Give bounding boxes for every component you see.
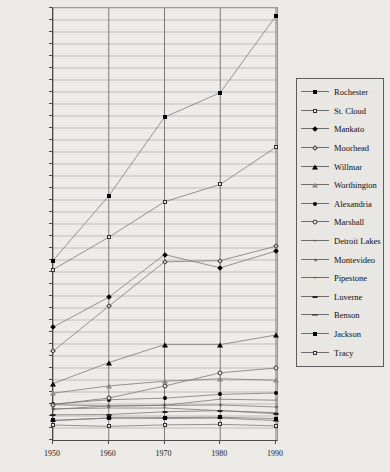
legend-symbol	[301, 328, 329, 340]
legend-item-willmar[interactable]: Willmar	[299, 157, 381, 176]
legend-symbol	[301, 161, 329, 173]
data-point-marker	[218, 415, 222, 419]
data-point-marker	[51, 268, 55, 272]
legend-label: Worthington	[329, 180, 377, 190]
legend-item-mankato[interactable]: Mankato	[299, 120, 381, 139]
data-point-marker	[51, 259, 55, 263]
data-point-marker	[106, 383, 112, 388]
legend-item-benson[interactable]: Benson	[299, 306, 381, 325]
data-point-marker	[217, 342, 223, 347]
legend-symbol	[301, 198, 329, 210]
chart-plot-wrapper: 0200040006000800010000120001400016000180…	[0, 0, 290, 472]
x-tick-mark	[164, 440, 165, 444]
legend-label: Alexandria	[329, 199, 372, 209]
legend-label: Moorhead	[329, 143, 369, 153]
data-point-marker	[163, 200, 167, 204]
data-point-marker	[107, 235, 111, 239]
legend-label: Montevideo	[329, 255, 375, 265]
legend-label: Pipestone	[329, 273, 367, 283]
data-point-marker	[107, 424, 111, 428]
data-point-marker	[218, 422, 222, 426]
legend-marker-icon	[313, 296, 318, 298]
legend-marker-icon	[313, 109, 317, 113]
legend-marker-icon: +	[313, 276, 318, 281]
legend-label: Marshall	[329, 217, 364, 227]
data-point-marker	[162, 384, 167, 389]
legend-item-jackson[interactable]: Jackson	[299, 325, 381, 344]
legend-marker-icon	[313, 90, 317, 94]
legend-marker-icon	[313, 202, 317, 206]
legend-item-worthington[interactable]: Worthington	[299, 176, 381, 195]
data-point-marker	[274, 14, 278, 18]
legend-item-rochester[interactable]: Rochester	[299, 83, 381, 102]
data-point-marker	[51, 418, 55, 422]
data-point-marker	[274, 413, 279, 415]
data-point-marker	[162, 411, 167, 413]
data-point-marker	[218, 410, 223, 412]
legend-label: Tracy	[329, 348, 354, 358]
x-tick-label: 1950	[32, 449, 72, 458]
data-point-marker	[163, 423, 167, 427]
legend-item-detroit-lakes[interactable]: ×Detroit Lakes	[299, 232, 381, 251]
legend-item-marshall[interactable]: Marshall	[299, 213, 381, 232]
series-lines	[53, 8, 277, 440]
data-point-marker	[218, 370, 223, 375]
legend-symbol: ×	[301, 235, 329, 247]
data-point-marker: +	[106, 406, 111, 411]
legend-label: Jackson	[329, 329, 361, 339]
data-point-marker	[106, 360, 112, 365]
legend-marker-icon: ∗	[313, 257, 318, 262]
legend-item-pipestone[interactable]: +Pipestone	[299, 269, 381, 288]
data-point-marker	[163, 115, 167, 119]
plot-area: ×××××∗∗∗∗∗+++++	[52, 7, 278, 441]
legend-item-st-cloud[interactable]: St. Cloud	[299, 102, 381, 121]
legend-item-alexandria[interactable]: Alexandria	[299, 195, 381, 214]
legend-label: Benson	[329, 310, 360, 320]
data-point-marker	[274, 145, 278, 149]
data-point-marker	[106, 396, 111, 401]
legend-label: Rochester	[329, 87, 368, 97]
legend-marker-icon: ×	[313, 239, 318, 244]
legend-item-moorhead[interactable]: Moorhead	[299, 139, 381, 158]
legend-symbol	[301, 347, 329, 359]
legend-label: Detroit Lakes	[329, 236, 381, 246]
data-point-marker	[274, 417, 278, 421]
data-point-marker	[51, 423, 55, 427]
data-point-marker: ×	[274, 398, 279, 403]
legend-symbol	[301, 142, 329, 154]
legend-item-tracy[interactable]: Tracy	[299, 343, 381, 362]
legend-marker-icon	[313, 332, 317, 336]
legend-marker-icon	[312, 164, 318, 169]
chart-legend: RochesterSt. CloudMankatoMoorheadWillmar…	[296, 78, 384, 367]
legend-label: Luverne	[329, 292, 362, 302]
chart-screenshot: 0200040006000800010000120001400016000180…	[0, 0, 390, 472]
legend-symbol	[301, 179, 329, 191]
x-tick-mark	[52, 440, 53, 444]
legend-label: St. Cloud	[329, 106, 366, 116]
data-point-marker	[163, 396, 167, 400]
data-point-marker	[50, 381, 56, 386]
data-point-marker: +	[162, 406, 167, 411]
legend-symbol	[301, 309, 329, 321]
legend-symbol	[301, 291, 329, 303]
legend-marker-icon	[313, 351, 317, 355]
data-point-marker	[273, 378, 279, 383]
data-point-marker	[218, 182, 222, 186]
legend-symbol	[301, 123, 329, 135]
legend-symbol: ∗	[301, 254, 329, 266]
data-point-marker	[274, 366, 279, 371]
legend-item-luverne[interactable]: Luverne	[299, 288, 381, 307]
legend-symbol: +	[301, 272, 329, 284]
data-point-marker	[273, 333, 279, 338]
legend-item-montevideo[interactable]: ∗Montevideo	[299, 250, 381, 269]
data-point-marker	[107, 194, 111, 198]
data-point-marker: +	[51, 406, 56, 411]
legend-symbol	[301, 86, 329, 98]
x-tick-mark	[108, 440, 109, 444]
data-point-marker	[162, 342, 168, 347]
legend-marker-icon	[312, 127, 318, 133]
x-tick-mark	[219, 440, 220, 444]
data-point-marker	[51, 414, 56, 416]
x-tick-mark	[275, 440, 276, 444]
data-point-marker	[50, 391, 56, 396]
